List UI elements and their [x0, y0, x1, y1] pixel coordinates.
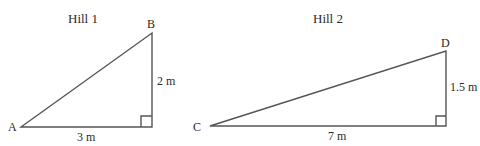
hill1-base-label: 3 m	[77, 131, 95, 143]
vertex-a-label: A	[8, 121, 17, 133]
hill2-right-angle-marker	[436, 116, 446, 126]
hill2-triangle-shape	[210, 51, 446, 126]
vertex-b-label: B	[147, 18, 155, 30]
vertex-d-label: D	[441, 37, 450, 49]
vertex-c-label: C	[193, 121, 201, 133]
hill2-base-label: 7 m	[328, 130, 346, 142]
hill1-triangle-shape	[21, 33, 152, 127]
hill1-height-label: 2 m	[157, 75, 175, 87]
hill2-height-label: 1.5 m	[450, 81, 477, 93]
hill1-title: Hill 1	[68, 12, 98, 25]
hill2-title: Hill 2	[313, 12, 343, 25]
diagram-canvas: Hill 1 B A 2 m 3 m Hill 2 D C 1.5 m 7 m	[0, 0, 480, 146]
hill1-triangle	[21, 33, 152, 127]
hill1-right-angle-marker	[141, 116, 152, 127]
hill2-triangle	[210, 51, 446, 126]
